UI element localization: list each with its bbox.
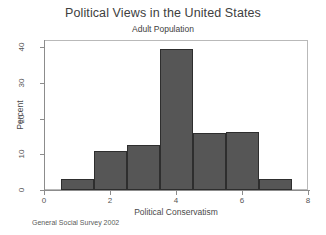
x-tick <box>44 191 45 195</box>
bar-4 <box>160 49 193 190</box>
x-tick-label: 6 <box>232 196 252 205</box>
bar-1 <box>61 179 94 190</box>
x-tick-label: 0 <box>34 196 54 205</box>
x-tick <box>110 191 111 195</box>
y-tick <box>40 119 44 120</box>
y-tick-label: 0 <box>10 181 34 199</box>
y-tick-label: 10 <box>10 145 34 163</box>
y-tick <box>40 154 44 155</box>
y-tick-label: 40 <box>10 38 34 56</box>
x-tick-label: 2 <box>100 196 120 205</box>
y-tick-label: 20 <box>10 110 34 128</box>
chart-title: Political Views in the United States <box>0 6 326 20</box>
x-axis-title: Political Conservatism <box>44 207 308 217</box>
plot-area <box>44 40 308 190</box>
bar-7 <box>259 179 292 190</box>
x-tick <box>176 191 177 195</box>
y-tick <box>40 83 44 84</box>
y-axis-line <box>44 40 45 191</box>
bar-6 <box>226 132 259 190</box>
x-tick <box>308 191 309 195</box>
x-tick-label: 8 <box>298 196 318 205</box>
source-note: General Social Survey 2002 <box>32 219 119 226</box>
y-tick-label: 30 <box>10 74 34 92</box>
bar-2 <box>94 151 127 190</box>
bar-5 <box>193 133 226 190</box>
chart-subtitle: Adult Population <box>0 24 326 34</box>
chart-figure: Political Views in the United States Adu… <box>0 0 326 235</box>
x-tick-label: 4 <box>166 196 186 205</box>
y-tick <box>40 47 44 48</box>
bar-3 <box>127 145 160 190</box>
x-tick <box>242 191 243 195</box>
